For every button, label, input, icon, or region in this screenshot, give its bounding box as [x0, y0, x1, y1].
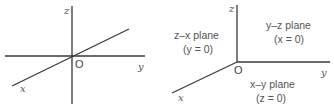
x-axis-label: x	[178, 92, 184, 103]
left-axes-diagram: z y x O	[5, 5, 145, 104]
x-axis-label: x	[20, 83, 26, 94]
right-planes-diagram: z y x O z–x plane (y = 0) y–z plane (x =…	[172, 3, 330, 104]
xy-plane-equation: (z = 0)	[256, 92, 286, 104]
y-axis-label: y	[320, 67, 327, 78]
x-axis-line	[12, 29, 129, 86]
zx-plane-label: z–x plane	[174, 29, 219, 41]
xy-plane-label: x–y plane	[250, 78, 295, 90]
origin-label: O	[75, 58, 84, 70]
origin-label: O	[234, 64, 243, 76]
z-axis-label: z	[63, 5, 70, 16]
z-axis-label: z	[228, 3, 235, 14]
coordinate-diagrams: z y x O z y x O z–x plane (y = 0) y–z pl…	[0, 0, 334, 112]
yz-plane-label: y–z plane	[266, 19, 311, 31]
yz-plane-equation: (x = 0)	[274, 33, 304, 45]
y-axis-label: y	[137, 61, 144, 72]
zx-plane-equation: (y = 0)	[183, 43, 213, 55]
x-axis-line	[172, 62, 237, 93]
